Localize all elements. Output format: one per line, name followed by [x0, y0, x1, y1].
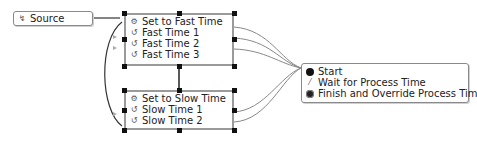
resize-handle[interactable] [122, 108, 127, 113]
source-node[interactable]: ↯ Source [13, 11, 93, 26]
wait-icon: ⁄ [305, 78, 315, 88]
fast-time-3[interactable]: ↺ Fast Time 3 [126, 49, 232, 60]
slow-group-header[interactable]: ⚙ Set to Slow Time [126, 93, 232, 104]
source-icon: ↯ [17, 14, 27, 24]
fast-time-1[interactable]: ↺ Fast Time 1 [126, 27, 232, 38]
resize-handle[interactable] [177, 11, 182, 16]
resize-handle[interactable] [122, 88, 127, 93]
resize-handle[interactable] [177, 64, 182, 69]
start-dot-icon [305, 67, 315, 77]
resize-handle[interactable] [122, 128, 127, 133]
fast-group-header[interactable]: ⚙ Set to Fast Time [126, 16, 232, 27]
resize-handle[interactable] [232, 11, 237, 16]
loop-icon: ↺ [129, 105, 139, 115]
finish-item[interactable]: Finish and Override Process Time [302, 88, 468, 99]
group-gear-icon: ⚙ [129, 17, 139, 27]
fast-time-group[interactable]: ⚙ Set to Fast Time ↺ Fast Time 1 ↺ Fast … [124, 13, 234, 66]
slow-time-2[interactable]: ↺ Slow Time 2 [126, 115, 232, 126]
resize-handle[interactable] [232, 88, 237, 93]
slow-time-group[interactable]: ⚙ Set to Slow Time ↺ Slow Time 1 ↺ Slow … [124, 90, 234, 130]
resize-handle[interactable] [177, 88, 182, 93]
fast-time-2[interactable]: ↺ Fast Time 2 [126, 38, 232, 49]
resize-handle[interactable] [232, 64, 237, 69]
wait-item[interactable]: ⁄ Wait for Process Time [302, 77, 468, 88]
resize-handle[interactable] [232, 108, 237, 113]
source-label: Source [30, 13, 64, 24]
resize-handle[interactable] [177, 128, 182, 133]
resize-handle[interactable] [122, 11, 127, 16]
loop-icon: ↺ [129, 39, 139, 49]
resize-handle[interactable] [122, 64, 127, 69]
slow-time-1[interactable]: ↺ Slow Time 1 [126, 104, 232, 115]
loop-icon: ↺ [129, 50, 139, 60]
finish-dot-icon [305, 89, 315, 99]
process-node[interactable]: Start ⁄ Wait for Process Time Finish and… [301, 63, 469, 103]
resize-handle[interactable] [232, 128, 237, 133]
start-item[interactable]: Start [302, 66, 468, 77]
loop-icon: ↺ [129, 116, 139, 126]
loop-icon: ↺ [129, 28, 139, 38]
group-gear-icon: ⚙ [129, 94, 139, 104]
resize-handle[interactable] [122, 37, 127, 42]
resize-handle[interactable] [232, 37, 237, 42]
